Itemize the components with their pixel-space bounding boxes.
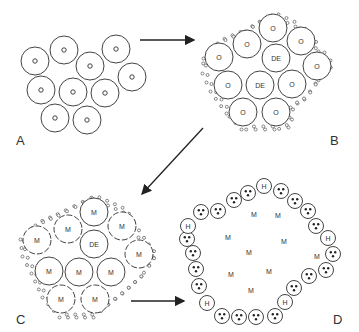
dot-icon [223, 313, 225, 315]
dot-icon [253, 314, 255, 316]
cell-label: M [281, 238, 287, 245]
small-cell [134, 281, 137, 284]
three-dot-cell [232, 310, 247, 325]
small-cell [20, 247, 23, 250]
three-dot-cell [192, 279, 207, 294]
cell-label: M [34, 237, 40, 244]
small-cell [273, 128, 276, 131]
small-cell [19, 238, 22, 241]
dot-icon [247, 194, 249, 196]
dot-icon [197, 266, 199, 268]
three-dot-cell [274, 184, 289, 199]
small-cell [41, 296, 44, 299]
small-cell [220, 105, 223, 108]
three-dot-cell [288, 194, 303, 209]
small-cell [127, 286, 130, 289]
cell-label: M [65, 226, 71, 233]
dot-icon [198, 287, 200, 289]
nucleus-icon [33, 59, 37, 63]
small-cell [114, 208, 117, 211]
panel-d: HHHHHMMMMMMMMM [180, 179, 341, 325]
small-cell [74, 206, 77, 209]
dot-icon [323, 267, 325, 269]
three-dot-cell [268, 309, 283, 324]
small-cell [224, 39, 227, 42]
nucleus-icon [85, 118, 89, 122]
small-cell [137, 236, 140, 239]
dot-icon [236, 314, 238, 316]
dot-icon [200, 283, 202, 285]
nucleus-icon [130, 75, 134, 79]
cell-label: DE [255, 82, 265, 89]
dot-icon [193, 266, 195, 268]
three-dot-cell [227, 193, 242, 208]
small-cell [285, 124, 288, 127]
small-cell [143, 236, 146, 239]
three-dot-cell [194, 205, 209, 220]
dot-icon [198, 209, 200, 211]
small-cell [303, 97, 306, 100]
three-dot-cell [301, 204, 316, 219]
dot-icon [235, 197, 237, 199]
small-cell [66, 210, 69, 213]
dot-icon [195, 270, 197, 272]
small-cell [314, 83, 317, 86]
dot-icon [196, 283, 198, 285]
dot-icon [184, 236, 186, 238]
three-dot-cell [241, 186, 256, 201]
small-cell [113, 203, 116, 206]
dot-icon [200, 213, 202, 215]
small-cell [106, 199, 109, 202]
panel-label-a: A [16, 133, 25, 148]
small-cell [264, 128, 267, 131]
dot-icon [308, 277, 310, 279]
dot-icon [186, 240, 188, 242]
cell-label: M [251, 211, 257, 218]
cell-label: M [76, 269, 82, 276]
dot-icon [330, 251, 332, 253]
small-cell [75, 316, 78, 319]
small-cell [251, 25, 254, 28]
small-cell [26, 264, 29, 267]
small-cell [220, 98, 223, 101]
arrow-b-to-c [142, 128, 203, 194]
nucleus-icon [62, 48, 66, 52]
small-cell [92, 316, 95, 319]
cell-label: O [298, 38, 304, 45]
cell-label: M [225, 234, 231, 241]
panel-b: OOOOOODEDEOOO [201, 13, 332, 131]
three-dot-cell [302, 269, 317, 284]
small-cell [30, 272, 33, 275]
cell-label: M [266, 268, 272, 275]
dot-icon [217, 212, 219, 214]
small-cell [225, 112, 228, 115]
cell-label: M [91, 209, 97, 216]
small-cell [142, 271, 145, 274]
small-cell [138, 229, 141, 232]
small-cell [225, 105, 228, 108]
dot-icon [334, 251, 336, 253]
dot-icon [215, 208, 217, 210]
small-cell [26, 256, 29, 259]
small-cell [210, 83, 213, 86]
dot-icon [294, 202, 296, 204]
dot-icon [313, 223, 315, 225]
dot-icon [194, 250, 196, 252]
dot-icon [292, 198, 294, 200]
small-cell [206, 74, 209, 77]
small-cell [262, 125, 265, 128]
small-cell [201, 72, 204, 75]
small-cell [114, 297, 117, 300]
cell-label: M [248, 287, 254, 294]
dot-icon [282, 188, 284, 190]
small-cell [31, 265, 34, 268]
dot-icon [192, 254, 194, 256]
three-dot-cell [319, 263, 334, 278]
small-cell [67, 316, 70, 319]
dot-icon [291, 285, 293, 287]
small-cell [82, 313, 85, 316]
panel-a [21, 35, 146, 134]
small-cell [252, 125, 255, 128]
dot-icon [188, 236, 190, 238]
dot-icon [249, 190, 251, 192]
